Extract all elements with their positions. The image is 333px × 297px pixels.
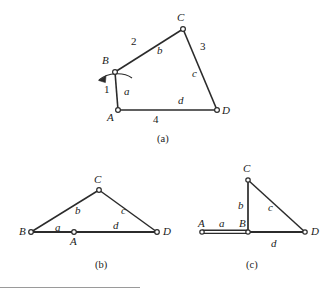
- joint-A: [72, 230, 77, 235]
- link-b-segment: [115, 29, 183, 72]
- panel-a-vertex-C-label: C: [177, 12, 184, 23]
- figure-root: A B C D a b c d 1 2 3 4 (a) B A C D a b …: [0, 0, 333, 297]
- panel-a-caption: (a): [157, 134, 169, 145]
- joint-D: [303, 230, 307, 234]
- joint-B: [29, 230, 34, 235]
- footnote-rule: [0, 287, 140, 288]
- joint-D: [215, 108, 220, 113]
- panel-b-geometry: [29, 188, 160, 235]
- panel-c-vertex-B-label: B: [239, 218, 246, 229]
- link-c-segment: [99, 190, 157, 232]
- panel-c-link-c-label: c: [268, 202, 273, 213]
- panel-b-link-c-label: c: [121, 205, 126, 216]
- panel-b-caption: (b): [95, 260, 107, 271]
- panel-b-vertex-D-label: D: [163, 226, 171, 237]
- panel-c-caption: (c): [246, 260, 258, 271]
- panel-b-link-b-label: b: [75, 205, 81, 216]
- joint-B: [246, 230, 250, 234]
- panel-a-vertex-A-label: A: [107, 112, 114, 123]
- joint-C: [181, 27, 186, 32]
- panel-a-link-c-label: c: [192, 68, 197, 79]
- panel-b-link-a-label: a: [55, 222, 61, 233]
- joint-B: [113, 70, 118, 75]
- panel-b-vertex-C-label: C: [94, 174, 101, 185]
- panel-b-link-d-label: d: [113, 220, 119, 231]
- panel-c-link-a-label: a: [219, 218, 225, 229]
- linkage-figure-svg: [0, 0, 333, 297]
- link-c-segment: [248, 180, 305, 232]
- panel-c-vertex-A-label: A: [198, 218, 205, 229]
- joint-C: [246, 178, 250, 182]
- joint-D: [155, 230, 160, 235]
- panel-c-vertex-C-label: C: [243, 163, 250, 174]
- panel-c-link-d-label: d: [271, 238, 277, 249]
- panel-c-vertex-D-label: D: [311, 226, 319, 237]
- panel-b-vertex-A-label: A: [70, 236, 77, 247]
- panel-a-vertex-D-label: D: [222, 105, 230, 116]
- panel-b-vertex-B-label: B: [19, 226, 26, 237]
- panel-a-number-2-label: 2: [131, 36, 137, 47]
- panel-c-link-b-label: b: [238, 200, 244, 211]
- panel-a-number-3-label: 3: [200, 41, 206, 52]
- link-b-segment: [31, 190, 99, 232]
- joint-A: [200, 230, 204, 234]
- joint-C: [97, 188, 102, 193]
- joint-A: [116, 108, 121, 113]
- panel-a-number-1-label: 1: [104, 84, 110, 95]
- panel-a-vertex-B-label: B: [102, 55, 109, 66]
- panel-a-link-b-label: b: [157, 45, 163, 56]
- link-a-segment: [115, 72, 118, 110]
- panel-c-geometry: [200, 178, 307, 234]
- panel-a-number-4-label: 4: [153, 114, 159, 125]
- panel-a-link-d-label: d: [178, 95, 184, 106]
- panel-a-link-a-label: a: [124, 86, 130, 97]
